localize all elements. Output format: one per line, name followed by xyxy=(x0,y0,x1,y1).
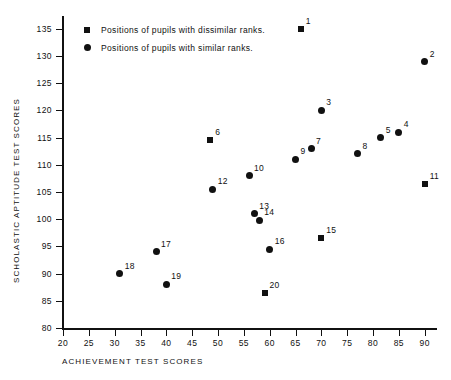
data-point xyxy=(318,235,324,241)
x-tick xyxy=(63,330,64,336)
y-axis-title: SCHOLASTIC APTITUDE TEST SCORES xyxy=(12,91,21,291)
x-tick-label: 70 xyxy=(316,338,326,348)
data-point-label: 16 xyxy=(275,236,285,246)
x-tick xyxy=(270,330,271,336)
data-point-label: 10 xyxy=(254,163,264,173)
y-tick-label: 85 xyxy=(30,296,52,306)
data-point xyxy=(395,129,402,136)
x-tick xyxy=(399,330,400,336)
x-tick-label: 25 xyxy=(84,338,94,348)
data-point-label: 2 xyxy=(430,49,435,59)
data-point-label: 6 xyxy=(215,127,220,137)
x-tick-label: 85 xyxy=(394,338,404,348)
y-tick-label: 135 xyxy=(30,24,52,34)
x-tick xyxy=(373,330,374,336)
data-point-label: 4 xyxy=(404,119,409,129)
x-tick xyxy=(425,330,426,336)
data-point xyxy=(318,107,325,114)
data-point xyxy=(207,137,213,143)
data-point-label: 14 xyxy=(264,207,274,217)
y-tick-label: 120 xyxy=(30,105,52,115)
data-point xyxy=(256,217,263,224)
x-tick-label: 60 xyxy=(265,338,275,348)
data-point-label: 7 xyxy=(316,136,321,146)
data-point-label: 12 xyxy=(218,176,228,186)
y-tick-label: 80 xyxy=(30,323,52,333)
data-point xyxy=(262,290,268,296)
x-tick-label: 75 xyxy=(342,338,352,348)
y-tick-label: 115 xyxy=(30,133,52,143)
x-tick xyxy=(192,330,193,336)
data-point xyxy=(422,181,428,187)
data-point-label: 9 xyxy=(301,146,306,156)
y-tick xyxy=(56,328,62,329)
x-tick-label: 45 xyxy=(187,338,197,348)
y-tick-label: 125 xyxy=(30,78,52,88)
x-tick xyxy=(296,330,297,336)
data-point xyxy=(308,145,315,152)
x-tick xyxy=(115,330,116,336)
data-point xyxy=(266,246,273,253)
x-tick-label: 65 xyxy=(290,338,300,348)
x-tick-label: 80 xyxy=(368,338,378,348)
x-tick xyxy=(347,330,348,336)
scatter-chart: 80859095100105110115120125130135 2025303… xyxy=(0,0,451,380)
x-tick-label: 35 xyxy=(135,338,145,348)
data-point xyxy=(292,156,299,163)
data-point-label: 1 xyxy=(306,16,311,26)
x-tick-label: 20 xyxy=(58,338,68,348)
x-tick-label: 55 xyxy=(239,338,249,348)
data-point-label: 18 xyxy=(125,261,135,271)
x-tick-label: 30 xyxy=(110,338,120,348)
y-tick-label: 100 xyxy=(30,214,52,224)
y-tick-label: 130 xyxy=(30,51,52,61)
data-point xyxy=(246,172,253,179)
x-tick-label: 50 xyxy=(213,338,223,348)
y-tick-label: 95 xyxy=(30,241,52,251)
data-point xyxy=(163,281,170,288)
data-point-label: 11 xyxy=(430,171,439,181)
x-tick xyxy=(89,330,90,336)
y-tick-label: 90 xyxy=(30,269,52,279)
data-point xyxy=(153,248,160,255)
x-tick xyxy=(218,330,219,336)
data-point-label: 5 xyxy=(386,125,391,135)
x-tick xyxy=(141,330,142,336)
data-point-label: 15 xyxy=(326,225,336,235)
x-tick xyxy=(244,330,245,336)
data-point xyxy=(251,210,258,217)
x-tick-label: 90 xyxy=(420,338,430,348)
data-point-label: 19 xyxy=(171,271,181,281)
data-point-label: 3 xyxy=(326,97,331,107)
x-tick xyxy=(166,330,167,336)
data-point xyxy=(298,26,304,32)
data-point-label: 17 xyxy=(161,239,171,249)
x-tick xyxy=(321,330,322,336)
y-tick-label: 105 xyxy=(30,187,52,197)
x-tick-label: 40 xyxy=(161,338,171,348)
y-tick-label: 110 xyxy=(30,160,52,170)
x-axis-title: ACHIEVEMENT TEST SCORES xyxy=(62,357,203,366)
data-point-label: 20 xyxy=(270,280,280,290)
data-point-label: 8 xyxy=(363,141,368,151)
x-axis-line xyxy=(62,328,437,330)
